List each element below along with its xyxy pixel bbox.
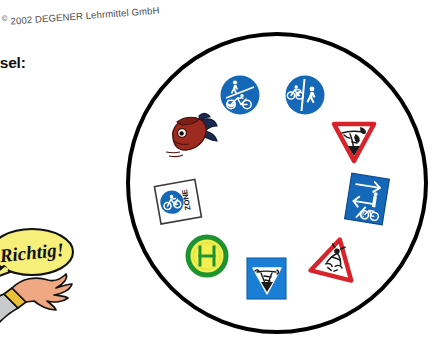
cartoon-character-pointing: Richtig! bbox=[0, 222, 102, 358]
worksheet-page: © 2002 DEGENER Lehrmittel GmbH hen-Kreis… bbox=[0, 0, 438, 358]
sign-blue-square-triangle[interactable] bbox=[244, 254, 290, 304]
sign-yield-scribble[interactable] bbox=[330, 118, 378, 166]
decoy-fish-illustration[interactable] bbox=[163, 108, 223, 160]
sign-bus-stop-h[interactable] bbox=[185, 234, 229, 278]
copyright-notice: © 2002 DEGENER Lehrmittel GmbH bbox=[2, 2, 160, 27]
copyright-text: 2002 DEGENER Lehrmittel GmbH bbox=[7, 5, 160, 27]
sign-bike-route-end[interactable]: E bbox=[341, 170, 393, 228]
cartoon-arm bbox=[0, 274, 72, 354]
sign-bike-ped-diagonal[interactable] bbox=[219, 74, 261, 116]
sign-bicycle-zone[interactable]: ZONE bbox=[151, 175, 206, 229]
page-title: hen-Kreisel: bbox=[0, 54, 26, 72]
sign-bike-ped-vertical[interactable] bbox=[284, 74, 326, 116]
